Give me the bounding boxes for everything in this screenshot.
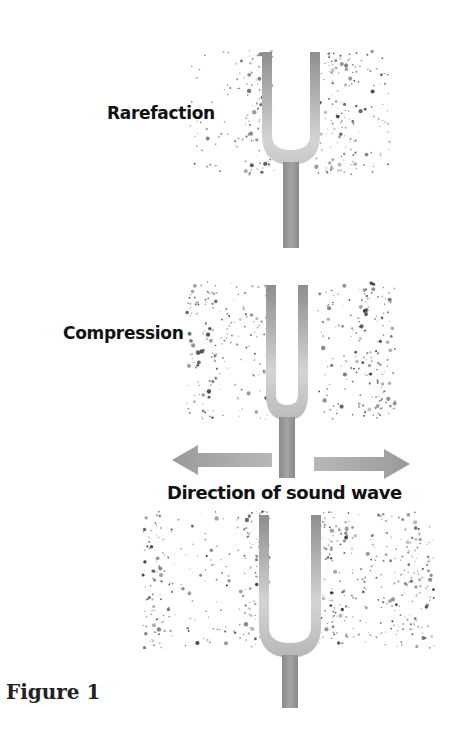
- figure-caption: Figure 1: [6, 680, 100, 704]
- rarefaction-label: Rarefaction: [107, 103, 215, 123]
- sound-wave-diagram: [0, 0, 471, 744]
- compression-panel: [185, 281, 396, 478]
- direction-label: Direction of sound wave: [167, 482, 402, 503]
- compression-label: Compression: [63, 323, 184, 343]
- air-particles: [142, 510, 435, 649]
- arrow-left-icon: [172, 445, 272, 475]
- air-particles: [185, 281, 396, 419]
- tuning-fork-icon: [266, 285, 308, 478]
- tuning-fork-icon: [259, 515, 321, 708]
- propagation-panel: [142, 510, 435, 708]
- tuning-fork-icon: [262, 52, 320, 248]
- arrow-right-icon: [314, 449, 410, 479]
- rarefaction-panel: [190, 50, 391, 248]
